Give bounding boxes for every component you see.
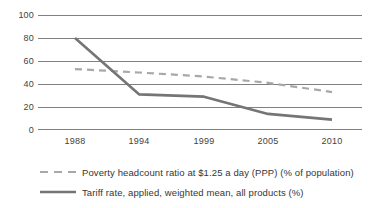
solid-line-swatch-icon xyxy=(38,186,78,198)
y-tick-label-100: 100 xyxy=(0,11,34,20)
legend-item-tariff: Tariff rate, applied, weighted mean, all… xyxy=(0,182,372,202)
gridlines xyxy=(38,16,362,130)
x-tick-label-1988: 1988 xyxy=(53,136,97,146)
x-axis: 1988 1994 1999 2005 2010 xyxy=(38,136,362,150)
y-axis: 100 80 60 40 20 0 xyxy=(0,0,34,145)
x-tick-label-2005: 2005 xyxy=(246,136,290,146)
x-tick-label-1999: 1999 xyxy=(182,136,226,146)
y-tick-label-80: 80 xyxy=(0,34,34,43)
chart-legend: Poverty headcount ratio at $1.25 a day (… xyxy=(0,162,372,202)
y-tick-label-20: 20 xyxy=(0,103,34,112)
x-tick-label-2010: 2010 xyxy=(310,136,354,146)
legend-item-poverty: Poverty headcount ratio at $1.25 a day (… xyxy=(0,162,372,182)
y-tick-label-40: 40 xyxy=(0,80,34,89)
x-tick-label-1994: 1994 xyxy=(117,136,161,146)
plot-area xyxy=(38,15,362,130)
legend-label-tariff: Tariff rate, applied, weighted mean, all… xyxy=(82,187,304,198)
y-tick-label-60: 60 xyxy=(0,57,34,66)
line-chart: 100 80 60 40 20 0 1988 1994 1999 xyxy=(0,0,372,208)
plot-svg xyxy=(38,15,362,130)
legend-label-poverty: Poverty headcount ratio at $1.25 a day (… xyxy=(82,167,354,178)
dashed-line-swatch-icon xyxy=(38,166,78,178)
y-tick-label-0: 0 xyxy=(0,126,34,135)
